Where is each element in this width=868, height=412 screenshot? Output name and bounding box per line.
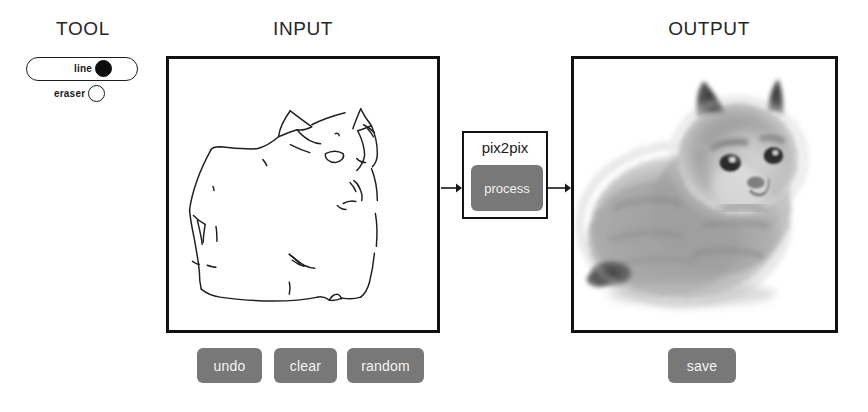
pix2pix-module-label: pix2pix — [464, 139, 546, 156]
random-button[interactable]: random — [347, 348, 424, 383]
undo-button[interactable]: undo — [197, 348, 262, 383]
radio-line-icon[interactable] — [95, 60, 112, 77]
tool-option-line[interactable]: line — [74, 60, 112, 77]
clear-button[interactable]: clear — [274, 348, 337, 383]
cat-sketch-drawing[interactable] — [169, 59, 437, 330]
tool-section-title: TOOL — [33, 18, 133, 40]
arrow-right-icon-model-to-output — [547, 181, 572, 195]
pix2pix-module: pix2pix process — [462, 131, 548, 219]
save-button[interactable]: save — [668, 348, 736, 383]
input-drawing-canvas[interactable] — [166, 56, 440, 333]
app-root: TOOL INPUT OUTPUT line eraser — [0, 0, 868, 412]
output-result-canvas — [571, 56, 838, 333]
tool-option-eraser-label: eraser — [54, 89, 85, 99]
tool-option-eraser[interactable]: eraser — [54, 85, 105, 102]
radio-eraser-icon[interactable] — [88, 85, 105, 102]
tool-option-line-label: line — [74, 64, 92, 74]
process-button[interactable]: process — [471, 165, 543, 211]
tool-selector[interactable]: line eraser — [26, 57, 140, 83]
input-section-title: INPUT — [228, 18, 378, 40]
output-section-title: OUTPUT — [634, 18, 784, 40]
arrow-right-icon-input-to-model — [441, 181, 463, 195]
generated-cat-image — [574, 59, 835, 330]
